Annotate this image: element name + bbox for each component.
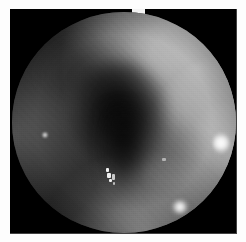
specular-highlight-right: [212, 132, 230, 154]
mucus-speck: [162, 158, 166, 161]
lens-vignette: [12, 12, 236, 233]
mucus-speck: [112, 174, 115, 180]
endoscopic-field-of-view: [12, 12, 236, 233]
mucus-speck: [113, 182, 115, 185]
image-caption: [0, 0, 1, 1]
endoscopic-image-plate: [10, 9, 237, 234]
specular-highlight-bottom: [172, 200, 188, 214]
mucus-speck: [106, 168, 109, 172]
page-canvas: [0, 0, 246, 242]
specular-highlight-left: [42, 132, 48, 138]
mucus-speck: [107, 173, 111, 178]
